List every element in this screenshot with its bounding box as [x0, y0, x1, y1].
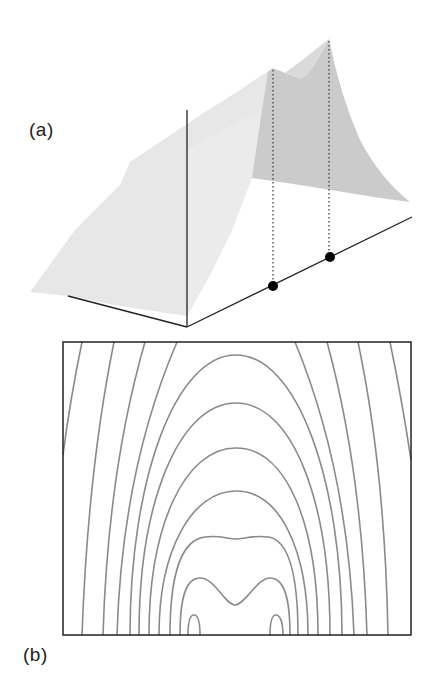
- left-peak-marker: [268, 281, 278, 291]
- panel-a-surface-plot: [30, 39, 412, 327]
- contour-line: [63, 342, 82, 455]
- contour-line: [358, 342, 388, 635]
- figure-canvas: [0, 0, 447, 696]
- panel-b-contour-plot: [63, 342, 411, 635]
- surface-peak-face: [252, 39, 410, 202]
- contour-line: [103, 342, 145, 635]
- panel-a-label: (a): [29, 119, 54, 141]
- contour-line: [327, 342, 367, 635]
- contour-loop-right: [270, 615, 283, 635]
- contour-arch-m: [180, 578, 290, 635]
- contour-line: [390, 342, 411, 460]
- panel-b-label: (b): [23, 644, 48, 666]
- right-peak-marker: [325, 252, 335, 262]
- contour-line: [295, 342, 354, 635]
- contour-line: [117, 342, 177, 635]
- contour-arch: [139, 403, 330, 635]
- contour-line: [82, 342, 114, 635]
- contour-loop-left: [188, 615, 200, 635]
